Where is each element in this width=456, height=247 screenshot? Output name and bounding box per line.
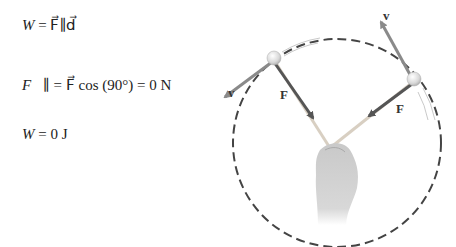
hand-icon [316,143,358,225]
velocity-label-right: v⃗ [383,8,400,23]
force-label-left: F⃗ [280,87,298,102]
velocity-label-left: v⃗ [228,85,245,100]
force-label-right: F⃗ [396,101,414,116]
ball-left [267,51,281,65]
ball-right [407,72,421,86]
circular-motion-diagram: v⃗ v⃗ F⃗ F⃗ [0,0,456,247]
